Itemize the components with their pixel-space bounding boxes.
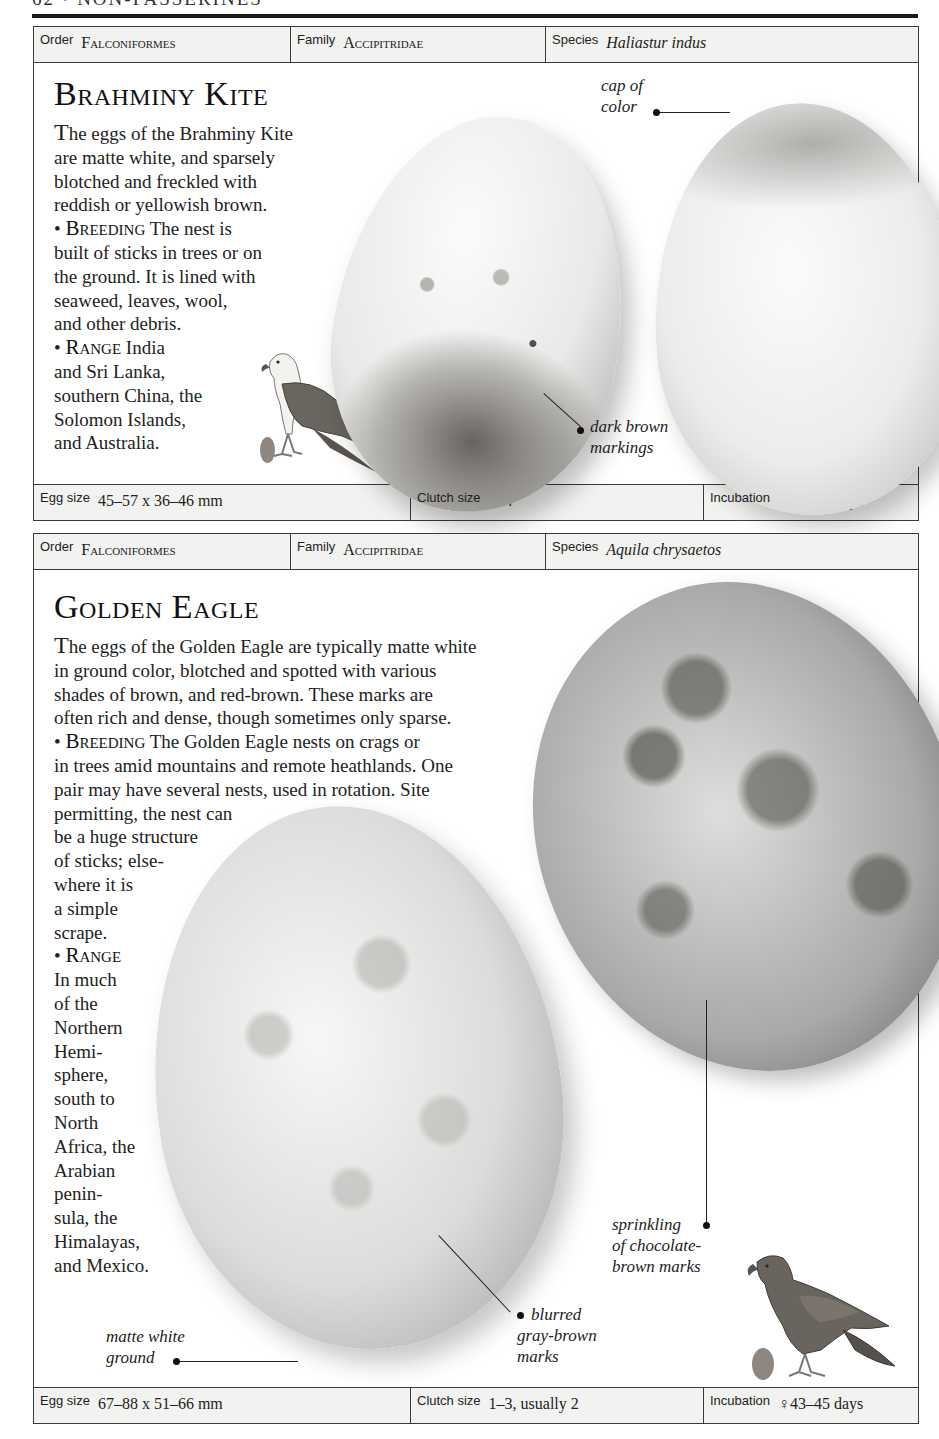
callout-leader <box>660 112 730 113</box>
callout-blurred-gray-brown-marks: blurred gray-brown marks <box>517 1304 627 1367</box>
callout-dot <box>173 1358 180 1365</box>
incubation-label: Incubation <box>710 1393 770 1408</box>
breeding-heading: Breeding <box>65 729 145 753</box>
description-text: he eggs of the Brahminy Kite are matte w… <box>54 123 293 215</box>
callout-cap-of-color: cap of color <box>601 75 681 117</box>
species-cell: Species Haliastur indus <box>546 27 918 62</box>
family-label: Family <box>297 539 335 554</box>
callout-leader <box>180 1361 298 1362</box>
family-label: Family <box>297 32 335 47</box>
range-heading: Range <box>65 943 121 967</box>
entry-body: Golden Eagle The eggs of the Golden Eagl… <box>34 570 918 1387</box>
incubation-cell: Incubation ♀43–45 days <box>704 1388 918 1423</box>
order-value: Falconiformes <box>81 34 175 52</box>
breeding-heading: Breeding <box>65 216 145 240</box>
family-value: Accipitridae <box>343 34 423 52</box>
breeding-text: The Golden Eagle nests on crags or in tr… <box>54 731 453 942</box>
egg-size-value: 67–88 x 51–66 mm <box>98 1395 223 1413</box>
entry-brahminy-kite: Order Falconiformes Family Accipitridae … <box>33 26 919 521</box>
egg-size-label: Egg size <box>40 1393 90 1408</box>
order-value: Falconiformes <box>81 541 175 559</box>
clutch-size-label: Clutch size <box>417 1393 481 1408</box>
callout-dot <box>653 109 660 116</box>
species-title: Golden Eagle <box>54 588 259 626</box>
description-text: he eggs of the Golden Eagle are typicall… <box>54 636 477 728</box>
running-head: 62 • NON-PASSERINES <box>32 0 263 10</box>
clutch-size-cell: Clutch size 1–3, usually 2 <box>411 1388 704 1423</box>
egg-size-cell: Egg size 45–57 x 36–46 mm <box>34 485 411 520</box>
family-cell: Family Accipitridae <box>291 534 546 569</box>
order-cell: Order Falconiformes <box>34 27 291 62</box>
order-label: Order <box>40 32 73 47</box>
incubation-value: ♀43–45 days <box>778 1395 863 1413</box>
header-rule <box>32 14 918 18</box>
species-description: The eggs of the Golden Eagle are typical… <box>54 634 554 1278</box>
family-cell: Family Accipitridae <box>291 27 546 62</box>
species-title: Brahminy Kite <box>54 75 268 113</box>
clutch-size-label: Clutch size <box>417 490 481 505</box>
species-label: Species <box>552 32 598 47</box>
range-heading: Range <box>65 335 121 359</box>
taxonomy-bar: Order Falconiformes Family Accipitridae … <box>34 27 918 63</box>
species-value: Haliastur indus <box>606 34 706 52</box>
egg-stats-bar: Egg size 67–88 x 51–66 mm Clutch size 1–… <box>34 1387 918 1423</box>
drop-initial: T <box>54 119 69 145</box>
drop-initial: T <box>54 632 69 658</box>
species-cell: Species Aquila chrysaetos <box>546 534 918 569</box>
callout-sprinkling-chocolate-brown-marks: sprinkling of chocolate- brown marks <box>612 1214 742 1277</box>
species-value: Aquila chrysaetos <box>606 541 721 559</box>
egg-size-label: Egg size <box>40 490 90 505</box>
family-value: Accipitridae <box>343 541 423 559</box>
egg-size-cell: Egg size 67–88 x 51–66 mm <box>34 1388 411 1423</box>
clutch-size-value: 1–3, usually 2 <box>489 1395 579 1413</box>
egg-size-value: 45–57 x 36–46 mm <box>98 492 223 510</box>
brahminy-kite-egg-2 <box>640 93 939 525</box>
callout-dot <box>577 427 584 434</box>
egg-scale-icon <box>752 1348 774 1380</box>
entry-body: Brahminy Kite The eggs of the Brahminy K… <box>34 63 918 484</box>
order-cell: Order Falconiformes <box>34 534 291 569</box>
callout-dark-brown-markings: dark brown markings <box>576 416 706 458</box>
range-text: In much of the Northern Hemi- sphere, so… <box>54 968 554 1277</box>
clutch-size-cell: Clutch size 1–4 <box>411 485 704 520</box>
incubation-label: Incubation <box>710 490 770 505</box>
egg-scale-icon <box>260 437 275 463</box>
taxonomy-bar: Order Falconiformes Family Accipitridae … <box>34 534 918 570</box>
entry-golden-eagle: Order Falconiformes Family Accipitridae … <box>33 533 919 1424</box>
order-label: Order <box>40 539 73 554</box>
callout-leader <box>706 1000 707 1225</box>
species-label: Species <box>552 539 598 554</box>
